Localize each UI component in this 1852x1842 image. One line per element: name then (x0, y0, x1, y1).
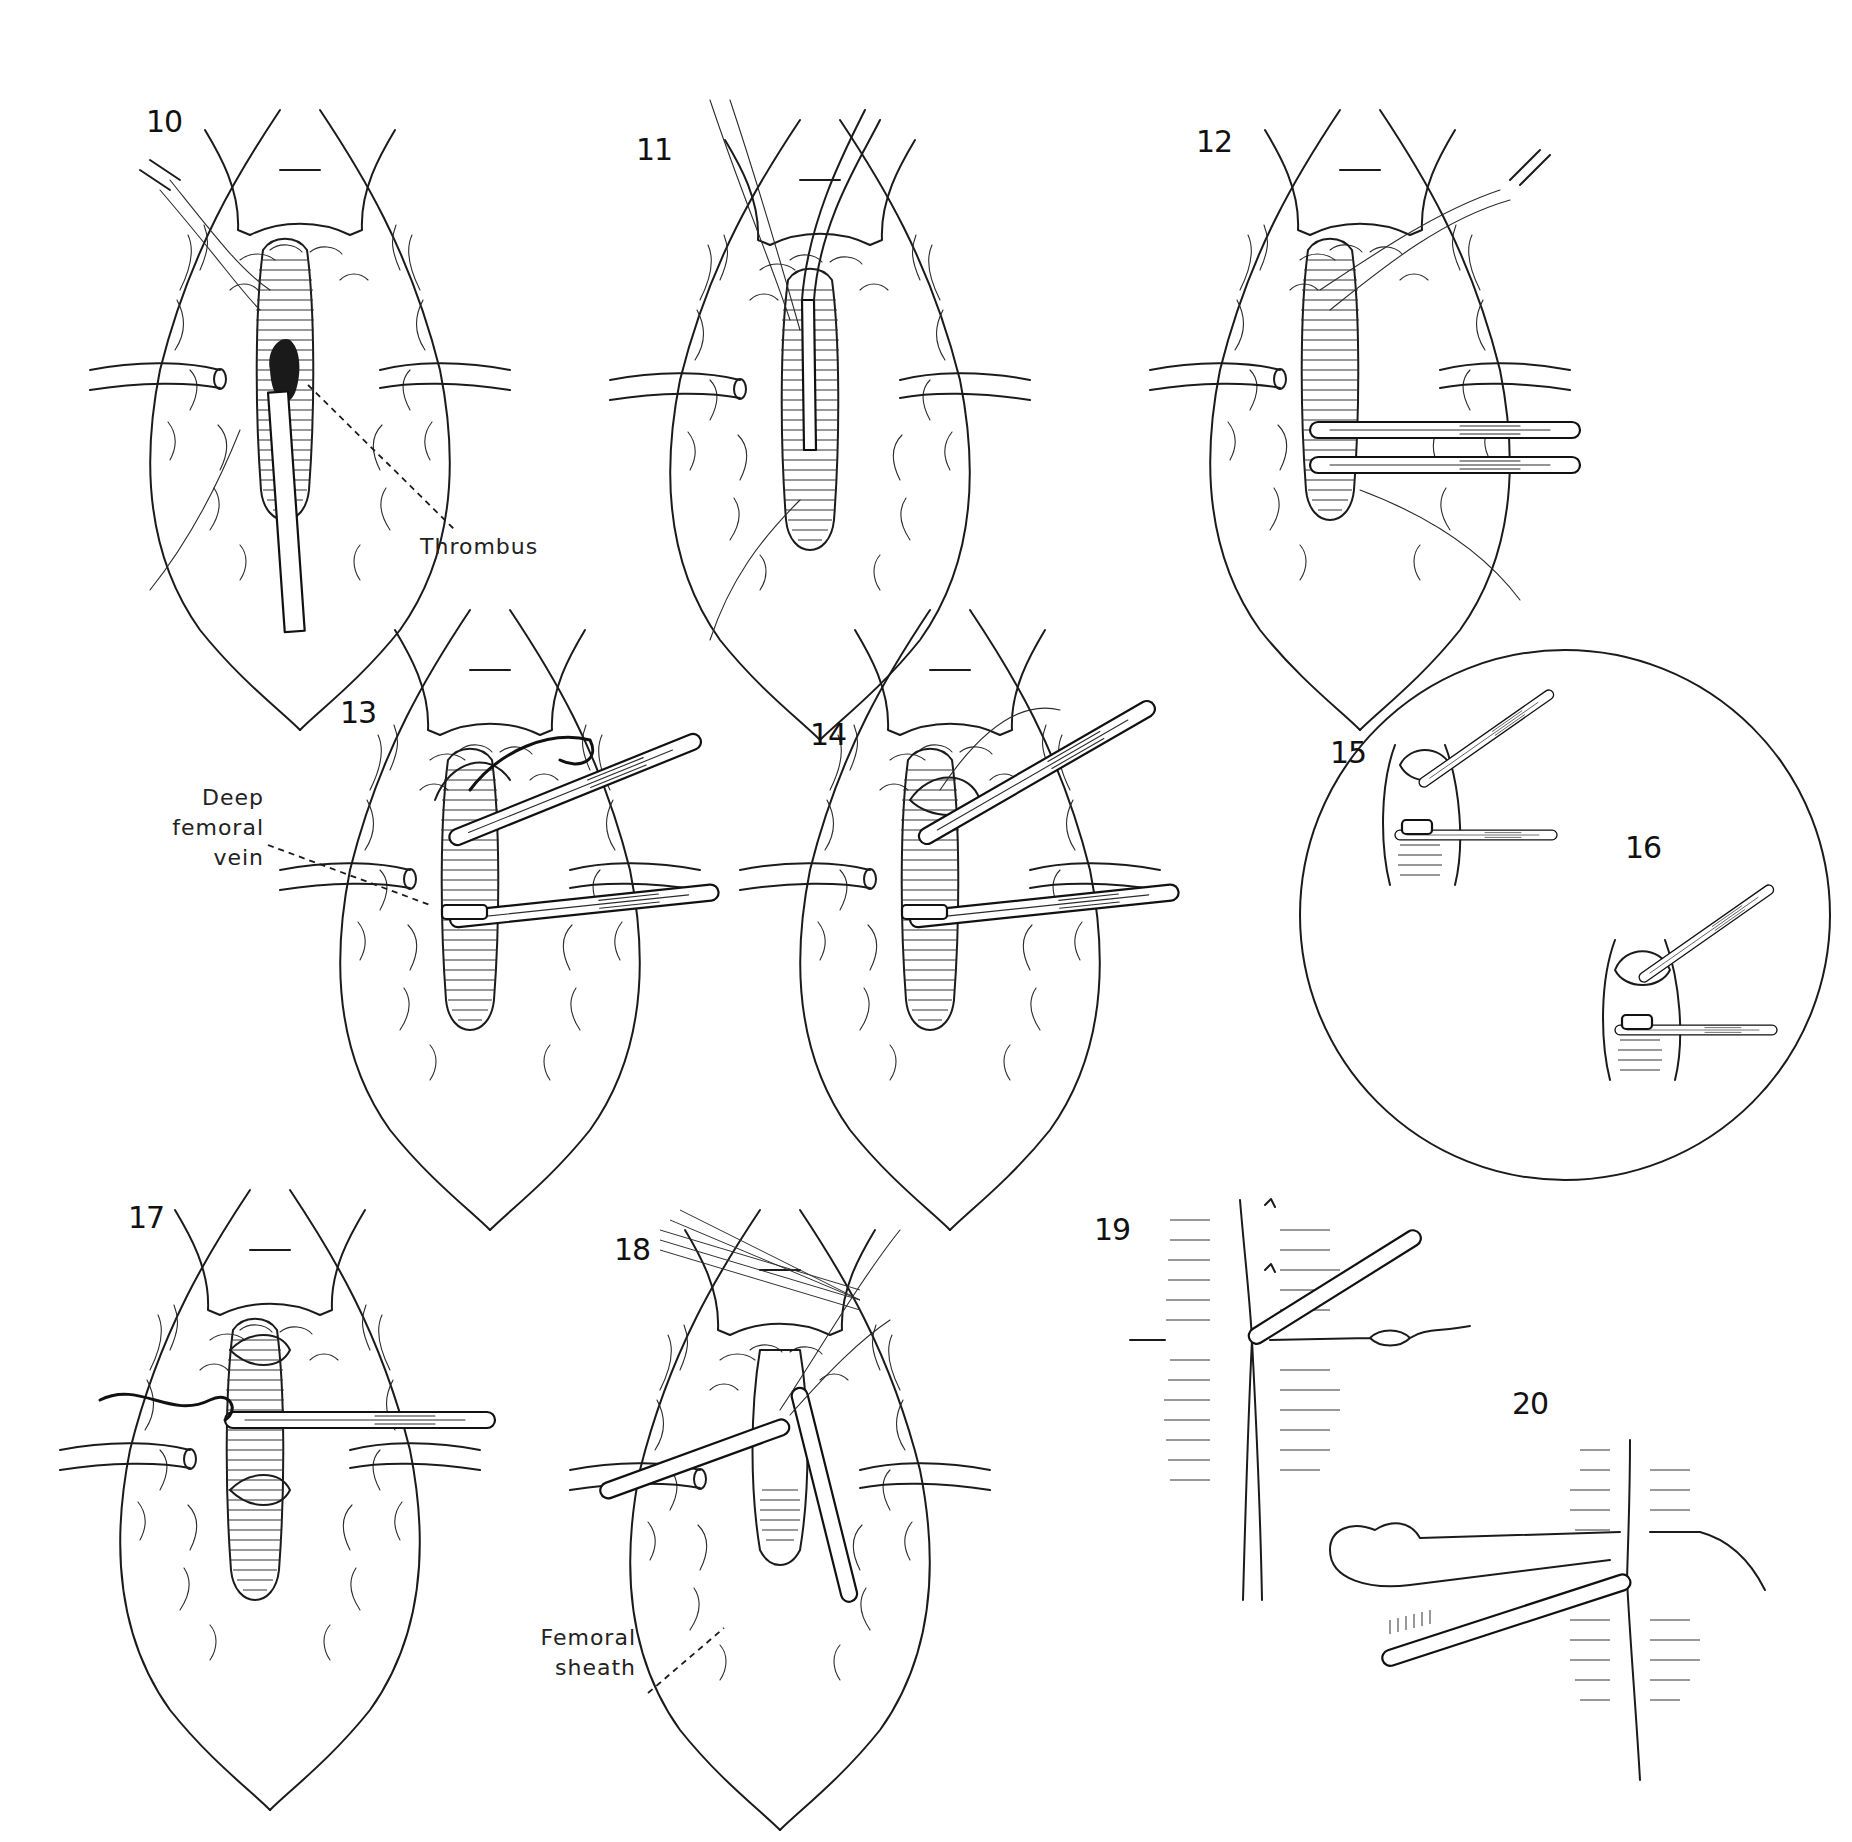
annotation-line: sheath (480, 1653, 636, 1683)
annotation-femoral-sheath: Femoral sheath (480, 1623, 636, 1683)
annotation-line: Femoral (480, 1623, 636, 1653)
annotation-deep-femoral-vein: Deep femoral vein (160, 783, 264, 873)
panel-number-14: 14 (810, 717, 846, 752)
panel-number-15: 15 (1330, 735, 1366, 770)
panel-number-17: 17 (128, 1200, 164, 1235)
surgical-illustration-artwork (0, 0, 1852, 1842)
panel-number-10: 10 (146, 104, 182, 139)
annotation-line: vein (160, 843, 264, 873)
panel-number-11: 11 (636, 132, 672, 167)
panel-number-16: 16 (1625, 830, 1661, 865)
annotation-thrombus: Thrombus (420, 532, 538, 562)
panel-number-12: 12 (1196, 124, 1232, 159)
annotation-line: femoral (160, 813, 264, 843)
annotation-line: Deep (160, 783, 264, 813)
panel-number-19: 19 (1094, 1212, 1130, 1247)
inset-circle (1300, 650, 1830, 1180)
panel-number-20: 20 (1512, 1386, 1548, 1421)
panel-number-18: 18 (614, 1232, 650, 1267)
panel-number-13: 13 (340, 695, 376, 730)
